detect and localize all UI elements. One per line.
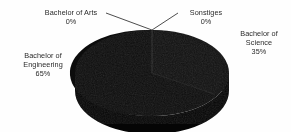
slice-label-sonstiges-name: Sonstiges	[178, 8, 234, 17]
slice-label-bachelor-of-arts-percent: 0%	[36, 17, 106, 26]
leader-line-sonstiges	[152, 13, 178, 30]
slice-label-sonstiges: Sonstiges 0%	[178, 8, 234, 26]
slice-label-bachelor-of-engineering-name-line2: Engineering	[8, 60, 78, 69]
pie-chart-figure: Bachelor of Arts 0% Sonstiges 0% Bachelo…	[0, 0, 291, 132]
slice-label-bachelor-of-science-name-line2: Science	[228, 38, 290, 47]
slice-label-bachelor-of-science-percent: 35%	[228, 47, 290, 56]
slice-label-sonstiges-percent: 0%	[178, 17, 234, 26]
slice-label-bachelor-of-arts-name: Bachelor of Arts	[36, 8, 106, 17]
leader-line-bachelor-of-arts	[106, 13, 152, 30]
slice-label-bachelor-of-engineering: Bachelor of Engineering 65%	[8, 51, 78, 78]
slice-label-bachelor-of-arts: Bachelor of Arts 0%	[36, 8, 106, 26]
slice-label-bachelor-of-engineering-percent: 65%	[8, 69, 78, 78]
slice-label-bachelor-of-science-name-line1: Bachelor of	[228, 29, 290, 38]
slice-label-bachelor-of-engineering-name-line1: Bachelor of	[8, 51, 78, 60]
slice-label-bachelor-of-science: Bachelor of Science 35%	[228, 29, 290, 56]
